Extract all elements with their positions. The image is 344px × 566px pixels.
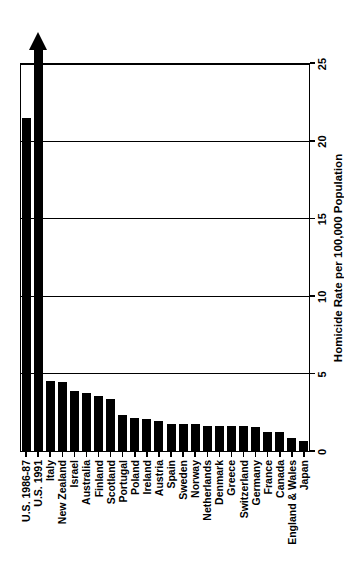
bar-fill (263, 432, 272, 452)
bars-layer (20, 64, 310, 452)
category-tick (98, 452, 100, 457)
bar-fill (287, 438, 296, 452)
category-tick (110, 452, 112, 457)
category-label: France (262, 460, 273, 494)
category-tick (291, 452, 293, 457)
bar[interactable] (287, 64, 296, 452)
bar[interactable] (94, 64, 103, 452)
category-label: Netherlands (202, 460, 213, 521)
bar-fill (154, 421, 163, 452)
bar-fill (106, 399, 115, 452)
category-label: Ireland (142, 460, 153, 494)
bar-fill (275, 432, 284, 452)
category-tick (231, 452, 233, 457)
category-tick (170, 452, 172, 457)
bar-fill (34, 50, 43, 452)
category-tick (62, 452, 64, 457)
category-tick (267, 452, 269, 457)
bar[interactable] (263, 64, 272, 452)
bar-fill (82, 393, 91, 452)
category-label: Greece (226, 460, 237, 496)
category-label: Germany (250, 460, 261, 506)
bar[interactable] (227, 64, 236, 452)
category-tick (279, 452, 281, 457)
bar-fill (22, 118, 31, 452)
bar-fill (70, 391, 79, 452)
category-label: Finland (93, 460, 104, 497)
bar-fill (179, 424, 188, 452)
off-scale-arrow-icon (29, 32, 47, 50)
category-tick (194, 452, 196, 457)
category-label: Switzerland (238, 460, 249, 518)
category-label: Spain (166, 460, 177, 489)
bar[interactable] (142, 64, 151, 452)
category-label: England & Wales (287, 460, 298, 545)
category-tick (49, 452, 51, 457)
category-label: Austria (154, 460, 165, 496)
category-label: Scotland (105, 460, 116, 504)
category-label: Poland (130, 460, 141, 495)
bar[interactable] (82, 64, 91, 452)
category-tick (207, 452, 209, 457)
category-label: New Zealand (57, 460, 68, 524)
category-tick (86, 452, 88, 457)
category-tick (25, 452, 27, 457)
bar[interactable] (58, 64, 67, 452)
bar-fill (239, 426, 248, 452)
bar-fill (130, 418, 139, 452)
bar[interactable] (191, 64, 200, 452)
bar-fill (227, 426, 236, 452)
bar[interactable] (106, 64, 115, 452)
bar[interactable] (118, 64, 127, 452)
bar[interactable] (179, 64, 188, 452)
category-label: Denmark (214, 460, 225, 505)
value-axis-title: Homicide Rate per 100,000 Population (310, 64, 344, 452)
bar[interactable] (215, 64, 224, 452)
category-label: Italy (45, 460, 56, 481)
bar[interactable] (239, 64, 248, 452)
bar-fill (191, 424, 200, 452)
category-axis: U.S. 1986-87U.S. 1991ItalyNew ZealandIsr… (20, 452, 310, 566)
category-tick (146, 452, 148, 457)
category-label: Japan (299, 460, 310, 490)
bar-fill (118, 415, 127, 452)
bar-fill (46, 381, 55, 452)
category-label: Australia (81, 460, 92, 505)
category-tick (219, 452, 221, 457)
bar[interactable] (275, 64, 284, 452)
category-tick (122, 452, 124, 457)
category-tick (74, 452, 76, 457)
bar-fill (203, 426, 212, 452)
category-label: Sweden (178, 460, 189, 500)
bar-fill (167, 424, 176, 452)
plot-area (20, 64, 310, 452)
bar-fill (215, 426, 224, 452)
bar[interactable] (70, 64, 79, 452)
category-label: Norway (190, 460, 201, 498)
bar-fill (251, 427, 260, 452)
bar[interactable] (130, 64, 139, 452)
category-tick (182, 452, 184, 457)
bar[interactable] (299, 64, 308, 452)
bar-fill (142, 419, 151, 452)
category-tick (158, 452, 160, 457)
category-label: Canada (275, 460, 286, 498)
category-label: U.S. 1986-87 (21, 460, 32, 522)
category-tick (255, 452, 257, 457)
bar[interactable] (154, 64, 163, 452)
category-label: Israel (69, 460, 80, 487)
bar[interactable] (46, 64, 55, 452)
category-tick (134, 452, 136, 457)
category-tick (37, 452, 39, 457)
bar-fill (299, 441, 308, 452)
bar[interactable] (203, 64, 212, 452)
bar[interactable] (34, 64, 43, 452)
bar[interactable] (251, 64, 260, 452)
category-tick (243, 452, 245, 457)
bar[interactable] (167, 64, 176, 452)
bar[interactable] (22, 64, 31, 452)
category-tick (303, 452, 305, 457)
category-label: Portugal (117, 460, 128, 503)
